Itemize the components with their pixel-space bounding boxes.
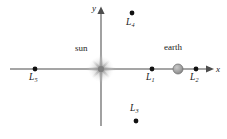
lagrange-point-L4-dot [130, 11, 135, 16]
lagrange-point-L5-dot [33, 67, 38, 72]
L3-base: L [130, 103, 135, 113]
earth-label: earth [164, 43, 182, 52]
L5-subscript: 5 [35, 76, 38, 83]
lagrange-points-figure: sun earth y x L1 L2 L3 L4 L5 [0, 0, 227, 139]
L5-base: L [29, 72, 34, 82]
x-axis-arrowhead [206, 65, 214, 72]
lagrange-point-L2-label: L2 [190, 73, 198, 83]
sun-core [98, 66, 104, 72]
y-axis-arrowhead [97, 7, 104, 15]
lagrange-point-L2-dot [194, 67, 199, 72]
L2-subscript: 2 [196, 76, 199, 83]
L1-base: L [146, 72, 151, 82]
lagrange-point-L5-label: L5 [29, 73, 37, 83]
sun-starburst-icon [86, 54, 116, 84]
lagrange-point-L3-label: L3 [130, 104, 138, 114]
lagrange-point-L3-dot [134, 119, 139, 124]
L3-subscript: 3 [136, 107, 139, 114]
L4-subscript: 4 [132, 21, 135, 28]
lagrange-point-L1-label: L1 [146, 73, 154, 83]
diagram-canvas [0, 0, 227, 139]
earth-marker [173, 64, 183, 74]
sun-label: sun [75, 44, 88, 53]
lagrange-point-L1-dot [150, 67, 155, 72]
x-axis-label: x [216, 65, 220, 74]
L2-base: L [190, 72, 195, 82]
L4-base: L [126, 17, 131, 27]
L1-subscript: 1 [152, 76, 155, 83]
lagrange-point-L4-label: L4 [126, 18, 134, 28]
y-axis-label: y [92, 4, 96, 13]
